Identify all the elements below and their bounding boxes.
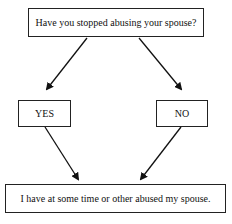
no-box: NO [156,100,208,127]
arrow-no-to-conclusion [141,127,181,179]
conclusion-text: I have at some time or other abused my s… [21,193,211,204]
no-text: NO [175,108,189,119]
yes-text: YES [35,108,54,119]
arrow-yes-to-conclusion [45,127,78,179]
arrow-question-to-yes [47,38,87,89]
yes-box: YES [18,100,71,127]
question-text: Have you stopped abusing your spouse? [36,17,197,28]
question-box: Have you stopped abusing your spouse? [28,8,204,37]
arrow-question-to-no [139,38,181,89]
conclusion-box: I have at some time or other abused my s… [5,184,226,213]
